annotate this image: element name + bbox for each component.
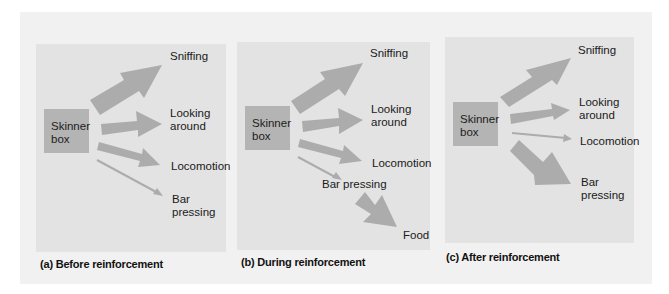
skinner-box-b-line2: box	[252, 130, 271, 142]
label-a-locomotion: Locomotion	[171, 160, 230, 173]
skinner-box-a: Skinner box	[44, 109, 89, 153]
caption-a: (a) Before reinforcement	[40, 258, 163, 270]
label-b-locomotion: Locomotion	[372, 157, 431, 170]
label-a-looking-around: Looking around	[170, 107, 210, 133]
label-a-sniffing: Sniffing	[170, 50, 208, 63]
skinner-box-a-line2: box	[51, 133, 70, 145]
caption-c: (c) After reinforcement	[446, 251, 560, 263]
skinner-box-c: Skinner box	[453, 102, 498, 146]
skinner-box-c-line2: box	[460, 126, 479, 138]
label-c-bar-pressing: Bar pressing	[581, 176, 624, 202]
skinner-box-b-line1: Skinner	[252, 117, 291, 129]
label-c-locomotion: Locomotion	[580, 135, 639, 148]
caption-b: (b) During reinforcement	[241, 256, 365, 268]
label-b-bar-pressing: Bar pressing	[322, 178, 387, 191]
label-b-sniffing: Sniffing	[370, 47, 408, 60]
label-b-looking-around: Looking around	[371, 103, 411, 129]
skinner-box-c-line1: Skinner	[460, 113, 499, 125]
label-a-bar-pressing: Bar pressing	[172, 193, 215, 219]
label-b-food: Food	[403, 229, 429, 242]
label-c-sniffing: Sniffing	[578, 44, 616, 57]
skinner-box-a-line1: Skinner	[51, 120, 90, 132]
label-c-looking-around: Looking around	[579, 96, 619, 122]
skinner-box-b: Skinner box	[245, 106, 290, 150]
